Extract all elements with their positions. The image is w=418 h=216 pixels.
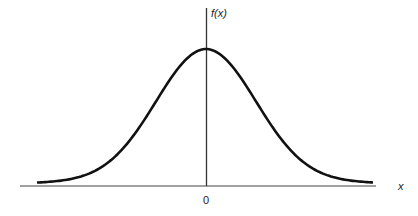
- x-axis-label: x: [398, 180, 404, 192]
- origin-tick-label: 0: [203, 194, 209, 206]
- y-axis-label: f(x): [211, 7, 227, 19]
- normal-distribution-chart: [0, 0, 418, 216]
- density-curve: [37, 49, 373, 183]
